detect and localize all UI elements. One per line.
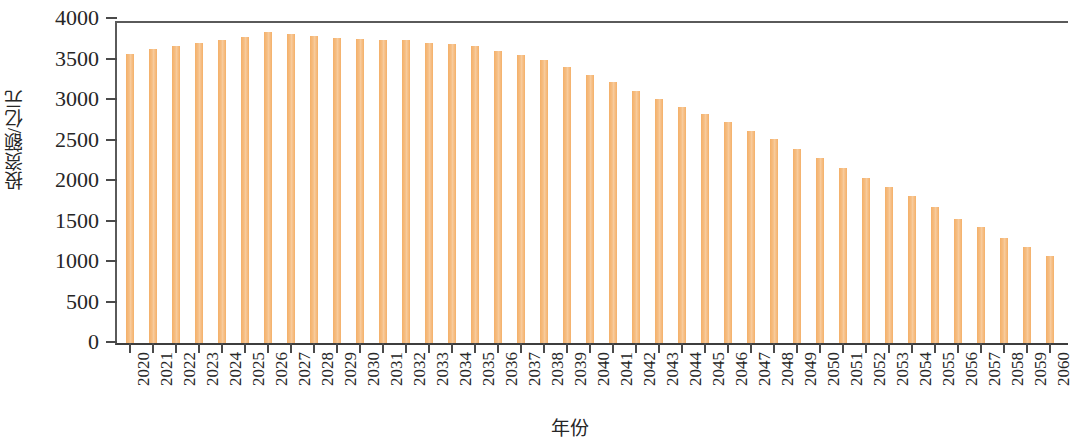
x-axis-tick-label: 2059 [1032,352,1050,414]
bars-layer [117,23,1068,343]
x-axis-tick-label: 2036 [503,352,521,414]
x-axis-tick-label: 2022 [181,352,199,414]
x-axis-tick-label: 2021 [158,352,176,414]
bar [1023,247,1031,343]
bar [724,122,732,343]
bar [287,34,295,343]
y-axis-tick: 1500 [106,220,117,222]
bar [540,60,548,344]
x-axis-tick-label: 2026 [273,352,291,414]
x-axis-tick-label: 2041 [618,352,636,414]
x-axis-tick-label: 2034 [457,352,475,414]
bar [954,219,962,343]
x-axis-tick-label: 2037 [526,352,544,414]
bar [793,149,801,343]
x-axis-tick-label: 2033 [434,352,452,414]
y-axis-tick-label: 500 [66,290,99,314]
bar [908,196,916,343]
x-axis-tick-label: 2020 [135,352,153,414]
x-axis-tick-label: 2050 [825,352,843,414]
plot-area: 05001000150020002500300035004000 [115,21,1068,345]
x-axis-tick-label: 2052 [871,352,889,414]
bar [678,107,686,343]
bar [471,46,479,343]
bar [1000,238,1008,343]
x-axis-tick-label: 2038 [549,352,567,414]
bar [885,187,893,343]
x-axis-tick-label: 2029 [342,352,360,414]
bar [655,99,663,343]
bar [448,44,456,343]
x-axis-tick-label: 2040 [595,352,613,414]
x-axis-tick-label: 2046 [733,352,751,414]
x-axis-tick-label: 2060 [1055,352,1073,414]
x-axis-tick-label: 2043 [664,352,682,414]
bar [310,36,318,343]
bar [977,227,985,343]
x-axis-tick-label: 2039 [572,352,590,414]
y-axis-tick: 2500 [106,139,117,141]
y-axis-tick-label: 3500 [55,47,99,71]
bar [333,38,341,343]
bar [264,32,272,343]
y-axis-title: 投资额/亿元 [4,90,34,190]
bar [701,114,709,343]
x-axis-tick-label: 2028 [319,352,337,414]
x-axis-tick-label: 2053 [894,352,912,414]
x-axis-tick-label: 2035 [480,352,498,414]
x-axis-tick-labels: 2020202120222023202420252026202720282029… [115,352,1068,414]
x-axis-tick-label: 2027 [296,352,314,414]
x-axis-tick-label: 2024 [227,352,245,414]
y-axis-tick: 500 [106,301,117,303]
y-axis-tick: 2000 [106,179,117,181]
x-axis-tick-label: 2044 [687,352,705,414]
y-axis-tick: 3500 [106,58,117,60]
x-axis-tick-label: 2032 [411,352,429,414]
bar [931,207,939,343]
bar [195,43,203,344]
x-axis-tick-label: 2023 [204,352,222,414]
bar [517,55,525,343]
bar [402,40,410,343]
bar [839,168,847,343]
y-axis-tick: 3000 [106,98,117,100]
bar [172,46,180,343]
y-axis-tick-label: 3000 [55,87,99,111]
x-axis-tick-label: 2045 [710,352,728,414]
x-axis-tick-label: 2058 [1009,352,1027,414]
x-axis-tick-label: 2054 [917,352,935,414]
bar [241,37,249,343]
bar [1046,256,1054,343]
bar [563,67,571,343]
bar [356,39,364,343]
x-axis-tick-label: 2025 [250,352,268,414]
bar [770,139,778,343]
bar [126,54,134,343]
x-axis-tick-label: 2051 [848,352,866,414]
bar [586,75,594,343]
x-axis-tick-label: 2042 [641,352,659,414]
x-axis-tick-label: 2031 [388,352,406,414]
x-axis-tick-label: 2048 [779,352,797,414]
y-axis-tick-label: 0 [88,330,99,354]
bar [609,82,617,343]
y-axis-tick-label: 1000 [55,249,99,273]
y-axis-tick: 1000 [106,260,117,262]
y-axis-tick-label: 1500 [55,209,99,233]
bar [816,158,824,343]
x-axis-tick-label: 2056 [963,352,981,414]
y-axis-tick-label: 2500 [55,128,99,152]
bar [425,43,433,343]
x-axis-tick-label: 2057 [986,352,1004,414]
bar [862,178,870,343]
bar [218,40,226,343]
y-axis-tick: 4000 [106,17,117,19]
y-axis-tick-label: 2000 [55,168,99,192]
y-axis-tick-label: 4000 [55,6,99,30]
x-axis-title: 年份 [0,418,1068,440]
y-axis-tick: 0 [106,341,117,343]
bar [149,49,157,343]
bar [494,51,502,343]
x-axis-tick-label: 2030 [365,352,383,414]
